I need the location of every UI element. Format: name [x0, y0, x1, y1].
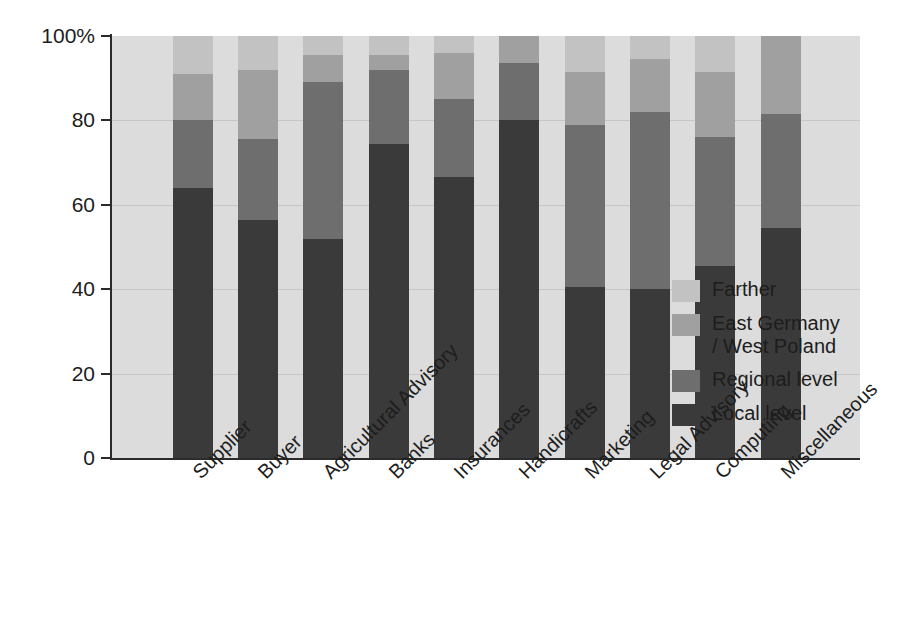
- bar-segment: [238, 70, 278, 140]
- y-tick-mark: [101, 204, 111, 206]
- bar-segment: [173, 120, 213, 188]
- bar-segment: [761, 36, 801, 114]
- y-tick-mark: [101, 35, 111, 37]
- legend-item[interactable]: Regional level: [672, 368, 872, 392]
- bar-segment: [630, 59, 670, 112]
- bar-segment: [173, 188, 213, 458]
- bar-segment: [695, 72, 735, 137]
- y-tick-label: 20: [72, 363, 95, 384]
- legend-swatch-icon: [672, 280, 700, 302]
- bar-segment: [303, 55, 343, 82]
- bar-supplier[interactable]: [173, 36, 213, 458]
- legend-item[interactable]: East Germany / West Poland: [672, 312, 872, 358]
- bar-segment: [303, 82, 343, 238]
- legend-label: East Germany / West Poland: [712, 312, 840, 358]
- legend: FartherEast Germany / West PolandRegiona…: [672, 278, 872, 436]
- bar-segment: [173, 74, 213, 120]
- bar-agricultural-advisory[interactable]: [303, 36, 343, 458]
- bar-handicrafts[interactable]: [499, 36, 539, 458]
- y-tick-label: 100%: [41, 25, 95, 46]
- legend-label: Local level: [712, 402, 807, 425]
- legend-label: Regional level: [712, 368, 838, 391]
- y-tick-mark: [101, 373, 111, 375]
- legend-label: Farther: [712, 278, 776, 301]
- bar-segment: [499, 36, 539, 63]
- bar-legal-advisory[interactable]: [630, 36, 670, 458]
- bar-segment: [303, 239, 343, 458]
- bar-segment: [173, 36, 213, 74]
- legend-swatch-icon: [672, 404, 700, 426]
- bar-segment: [434, 99, 474, 177]
- bar-segment: [630, 36, 670, 59]
- bar-segment: [695, 36, 735, 72]
- y-tick-mark: [101, 288, 111, 290]
- y-tick-label: 60: [72, 194, 95, 215]
- bar-segment: [434, 36, 474, 53]
- legend-swatch-icon: [672, 370, 700, 392]
- bar-segment: [369, 70, 409, 144]
- bar-segment: [369, 36, 409, 55]
- legend-item[interactable]: Local level: [672, 402, 872, 426]
- y-tick-label: 0: [83, 447, 95, 468]
- bar-segment: [565, 72, 605, 125]
- bar-segment: [695, 137, 735, 266]
- bar-insurances[interactable]: [434, 36, 474, 458]
- bar-segment: [238, 139, 278, 219]
- y-tick-mark: [101, 457, 111, 459]
- bar-segment: [434, 53, 474, 99]
- bar-segment: [565, 125, 605, 287]
- bar-segment: [303, 36, 343, 55]
- bar-segment: [369, 55, 409, 70]
- bar-buyer[interactable]: [238, 36, 278, 458]
- y-tick-mark: [101, 119, 111, 121]
- bar-segment: [565, 36, 605, 72]
- bar-segment: [499, 63, 539, 120]
- stacked-bar-chart: 100%806040200 SupplierBuyerAgricultural …: [0, 0, 905, 636]
- y-tick-label: 40: [72, 278, 95, 299]
- legend-item[interactable]: Farther: [672, 278, 872, 302]
- bar-segment: [630, 112, 670, 289]
- bar-segment: [238, 36, 278, 70]
- bar-segment: [761, 114, 801, 228]
- y-tick-label: 80: [72, 109, 95, 130]
- bar-segment: [434, 177, 474, 458]
- legend-swatch-icon: [672, 314, 700, 336]
